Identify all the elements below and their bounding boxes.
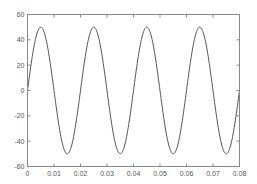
x-tick-label: 0.03 <box>100 170 114 177</box>
line-chart: 00.010.020.030.040.050.060.070.08 -60-40… <box>0 0 257 184</box>
x-tick-label: 0.08 <box>233 170 247 177</box>
y-axis-ticks: -60-40-200204060 <box>14 11 239 170</box>
x-tick-label: 0.04 <box>127 170 141 177</box>
x-tick-label: 0.02 <box>74 170 88 177</box>
x-tick-label: 0.05 <box>153 170 167 177</box>
x-tick-label: 0.01 <box>47 170 61 177</box>
y-tick-label: 60 <box>17 11 25 18</box>
y-tick-label: -20 <box>14 112 24 119</box>
y-tick-label: -60 <box>14 163 24 170</box>
signal-line <box>28 27 240 154</box>
y-tick-label: 40 <box>17 36 25 43</box>
x-tick-label: 0.06 <box>180 170 194 177</box>
x-tick-label: 0.07 <box>206 170 220 177</box>
x-tick-label: 0 <box>26 170 30 177</box>
y-tick-label: 0 <box>21 87 25 94</box>
y-tick-label: -40 <box>14 138 24 145</box>
y-tick-label: 20 <box>17 62 25 69</box>
